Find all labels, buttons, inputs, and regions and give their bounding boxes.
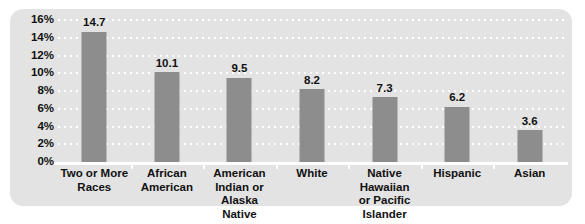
bar-chart-figure: 16%14%12%10%8%6%4%2%0% 14.710.19.58.27.3… — [10, 9, 572, 206]
bar-group: 10.1 — [131, 20, 204, 162]
x-axis-tick — [421, 162, 423, 169]
bar-group: 9.5 — [203, 20, 276, 162]
bar-value-label: 14.7 — [83, 17, 105, 29]
y-axis-tick-label: 14% — [10, 32, 54, 44]
bar-group: 6.2 — [421, 20, 494, 162]
y-axis-tick-label: 2% — [10, 139, 54, 151]
bar-value-label: 7.3 — [377, 83, 393, 95]
category-label-line: Hispanic — [421, 167, 494, 181]
category-label-line: Native Hawaiian — [348, 167, 421, 194]
y-axis-tick-label: 10% — [10, 68, 54, 80]
bar — [299, 89, 324, 162]
bar-value-label: 3.6 — [522, 116, 538, 128]
bar — [517, 130, 542, 162]
category-label: Native Hawaiianor Pacific Islander — [348, 167, 421, 221]
bar — [227, 78, 252, 162]
bars-layer: 14.710.19.58.27.36.23.6 — [58, 20, 566, 162]
y-axis: 16%14%12%10%8%6%4%2%0% — [10, 9, 58, 206]
category-label-line: American — [131, 181, 204, 195]
bar-group: 8.2 — [276, 20, 349, 162]
bar-group: 7.3 — [348, 20, 421, 162]
category-label-line: American — [203, 167, 276, 181]
category-label-line: Races — [58, 181, 131, 195]
y-axis-tick-label: 8% — [10, 85, 54, 97]
bar — [82, 32, 107, 162]
category-label: Hispanic — [421, 167, 494, 181]
y-axis-tick-label: 12% — [10, 50, 54, 62]
bar-value-label: 8.2 — [304, 75, 320, 87]
x-axis-tick — [493, 162, 495, 169]
category-label: Asian — [493, 167, 566, 181]
bar — [445, 107, 470, 162]
category-label-line: Alaska Native — [203, 194, 276, 221]
x-axis-tick — [203, 162, 205, 169]
y-axis-tick-label: 0% — [10, 156, 54, 168]
y-axis-tick-label: 16% — [10, 14, 54, 26]
bar — [372, 97, 397, 162]
bar — [154, 72, 179, 162]
category-label: AmericanIndian orAlaska Native — [203, 167, 276, 221]
category-label: AfricanAmerican — [131, 167, 204, 194]
category-label-line: Asian — [493, 167, 566, 181]
category-label-line: White — [276, 167, 349, 181]
category-label: Two or MoreRaces — [58, 167, 131, 194]
category-label-line: Two or More — [58, 167, 131, 181]
bar-group: 14.7 — [58, 20, 131, 162]
bar-value-label: 9.5 — [231, 63, 247, 75]
category-label-line: or Pacific Islander — [348, 194, 421, 221]
category-label-line: African — [131, 167, 204, 181]
category-label: White — [276, 167, 349, 181]
plot-area: 14.710.19.58.27.36.23.6 — [58, 20, 566, 162]
x-axis-tick — [131, 162, 133, 169]
x-axis-tick — [276, 162, 278, 169]
category-label-line: Indian or — [203, 181, 276, 195]
y-axis-tick-label: 4% — [10, 121, 54, 133]
bar-value-label: 6.2 — [449, 92, 465, 104]
bar-value-label: 10.1 — [156, 58, 178, 70]
x-axis-category-labels: Two or MoreRacesAfricanAmericanAmericanI… — [58, 167, 566, 211]
x-axis-tick — [348, 162, 350, 169]
bar-group: 3.6 — [493, 20, 566, 162]
y-axis-tick-label: 6% — [10, 103, 54, 115]
